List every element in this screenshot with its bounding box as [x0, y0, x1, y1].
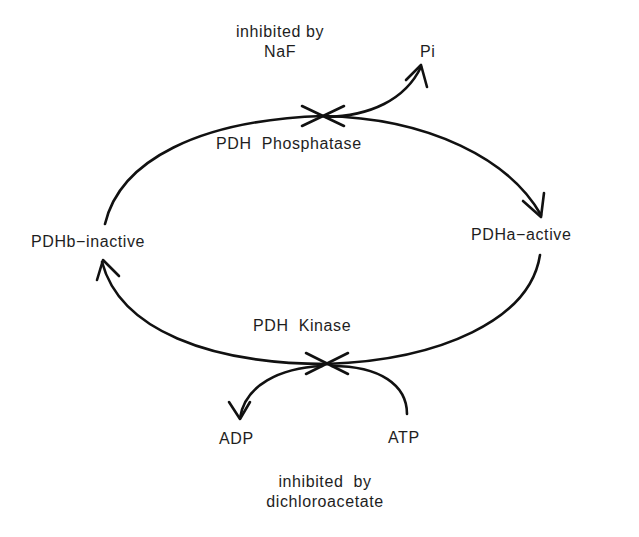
phosphatase-inhibitor-line1: inhibited by: [200, 22, 360, 42]
phosphatase-inhibitor-line2: NaF: [200, 42, 360, 62]
phosphatase-label: PDH Phosphatase: [216, 134, 362, 154]
arrowhead-adp-icon: [229, 402, 250, 419]
arc-pi-release: [326, 67, 421, 117]
pdh-cycle-diagram: inhibited by NaF Pi PDH Phosphatase PDHb…: [0, 0, 639, 537]
arc-active-to-kinase: [327, 255, 540, 364]
node-pdha-active: PDHa−active: [471, 225, 571, 245]
arc-atp-input: [332, 366, 407, 414]
pi-label: Pi: [420, 42, 435, 62]
arc-phosphatase-to-active: [323, 116, 541, 215]
kinase-label: PDH Kinase: [253, 316, 351, 336]
arc-inactive-to-phosphatase: [105, 116, 323, 224]
arc-kinase-to-inactive: [102, 262, 327, 364]
node-pdhb-inactive: PDHb−inactive: [31, 232, 145, 252]
phosphatase-inhibitor-label: inhibited by NaF: [200, 22, 360, 62]
kinase-inhibitor-label: inhibited by dichloroacetate: [235, 472, 415, 512]
kinase-inhibitor-line1: inhibited by: [235, 472, 415, 492]
kinase-inhibitor-line2: dichloroacetate: [235, 492, 415, 512]
diagram-arrows: [0, 0, 639, 537]
adp-label: ADP: [219, 429, 254, 449]
arc-adp-release: [240, 366, 322, 418]
atp-label: ATP: [388, 428, 420, 448]
